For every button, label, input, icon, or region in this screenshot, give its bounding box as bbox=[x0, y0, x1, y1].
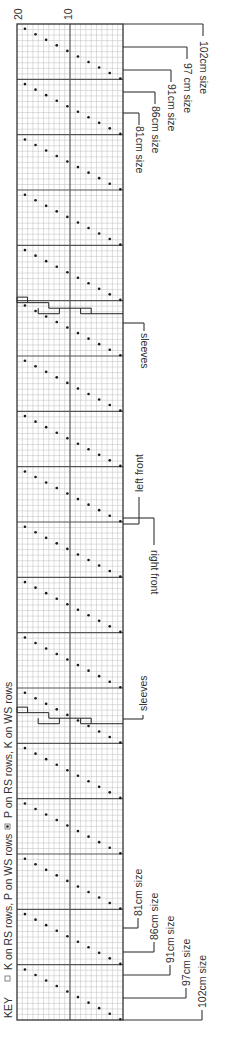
axis-tick-20: 20 bbox=[13, 8, 24, 20]
label-bottom-102cm: 102cm size bbox=[197, 955, 208, 1008]
label-bottom-91cm: 91cm size bbox=[165, 916, 176, 963]
key-title: KEY bbox=[3, 997, 14, 1018]
key-item-purl-label: P on RS rows, K on WS rows bbox=[3, 682, 14, 818]
label-bottom-86cm: 86cm size bbox=[149, 893, 160, 940]
label-top-97cm: 97 cm size bbox=[183, 63, 194, 113]
label-top-81cm: 81cm size bbox=[135, 126, 146, 173]
label-top-91cm: 91cm size bbox=[167, 84, 178, 131]
label-sleeves-top: sleeves bbox=[140, 333, 151, 369]
label-top-102cm: 102cm size bbox=[199, 41, 210, 94]
key-item-knit-label: K on RS rows, P on WS rows bbox=[3, 834, 14, 970]
axis-tick-10: 10 bbox=[63, 8, 74, 20]
label-top-86cm: 86cm size bbox=[151, 106, 162, 153]
label-sleeves-bottom: sleeves bbox=[138, 675, 149, 711]
knitting-chart bbox=[0, 0, 229, 1045]
label-bottom-97cm: 97cm size bbox=[181, 939, 192, 986]
label-right-front: right front bbox=[150, 550, 161, 594]
label-left-front: left front bbox=[134, 454, 145, 492]
label-bottom-81cm: 81cm size bbox=[133, 869, 144, 916]
